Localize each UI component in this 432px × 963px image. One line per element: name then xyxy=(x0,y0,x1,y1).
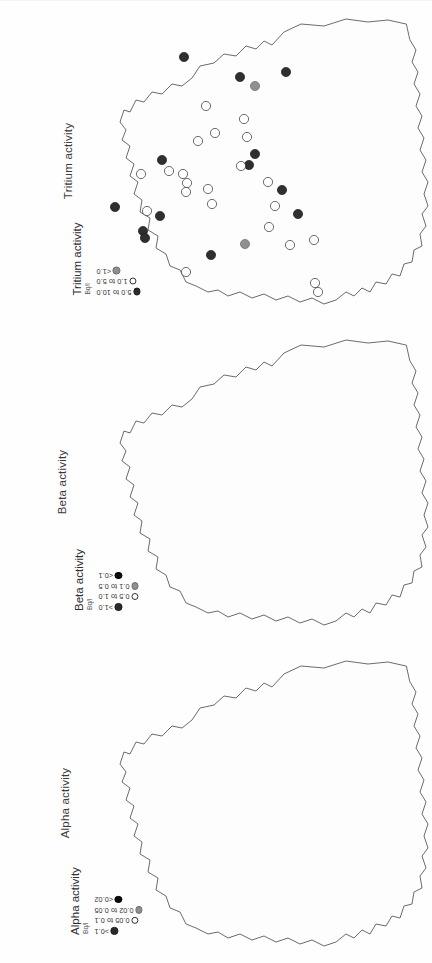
data-point xyxy=(140,233,149,242)
data-point xyxy=(236,161,245,170)
legend-title-alpha: Alpha activity xyxy=(69,867,81,935)
data-point xyxy=(203,184,212,193)
data-point xyxy=(281,67,290,76)
data-point xyxy=(310,278,319,287)
data-point xyxy=(210,128,219,137)
data-point xyxy=(264,222,273,231)
data-point xyxy=(239,114,248,123)
legend-title-tritium: Tritium activity xyxy=(71,222,83,295)
data-point xyxy=(313,287,322,296)
legend-unit-beta: Bq/l xyxy=(86,599,93,610)
panel-title-alpha: Alpha activity xyxy=(59,767,71,838)
data-point xyxy=(136,169,145,178)
data-point xyxy=(178,169,187,178)
data-point xyxy=(201,101,210,110)
panel-title-beta: Beta activity xyxy=(56,449,68,514)
panel-tritium-activity: Tritium activity Tritium activity Bq/l 5… xyxy=(0,0,432,321)
data-point xyxy=(277,185,286,194)
data-point xyxy=(155,211,164,220)
data-point xyxy=(293,209,302,218)
legend-unit-alpha: Bq/l xyxy=(82,923,89,934)
panel-title-tritium: Tritium activity xyxy=(62,122,74,198)
data-point xyxy=(110,202,119,211)
panel-alpha-activity: Alpha activity Alpha activity Bq/l >0.1 … xyxy=(0,642,432,963)
data-point xyxy=(285,240,294,249)
data-point xyxy=(157,155,166,164)
data-point xyxy=(235,72,244,81)
data-point xyxy=(240,239,249,248)
data-point xyxy=(250,149,259,158)
data-point xyxy=(142,206,151,215)
data-point xyxy=(242,132,251,141)
data-point xyxy=(250,81,259,90)
coastline-outline xyxy=(120,340,428,625)
map-alpha xyxy=(96,642,432,963)
data-point xyxy=(206,250,215,259)
data-point xyxy=(270,201,279,210)
map-beta xyxy=(96,321,432,642)
data-point xyxy=(181,267,190,276)
data-point xyxy=(179,52,188,61)
legend-unit-tritium: Bq/l xyxy=(84,283,91,294)
coastline-outline xyxy=(120,661,428,946)
data-point xyxy=(207,199,216,208)
data-point xyxy=(181,187,190,196)
data-point xyxy=(309,235,318,244)
panel-beta-activity: Beta activity Beta activity Bq/l >1.0 0.… xyxy=(0,321,432,642)
data-point xyxy=(263,177,272,186)
legend-title-beta: Beta activity xyxy=(73,549,85,611)
data-point xyxy=(193,136,202,145)
data-point xyxy=(164,166,173,175)
data-point xyxy=(182,178,191,187)
figure-radioactivity-maps: Tritium activity Tritium activity Bq/l 5… xyxy=(0,0,432,963)
map-tritium xyxy=(96,0,432,321)
